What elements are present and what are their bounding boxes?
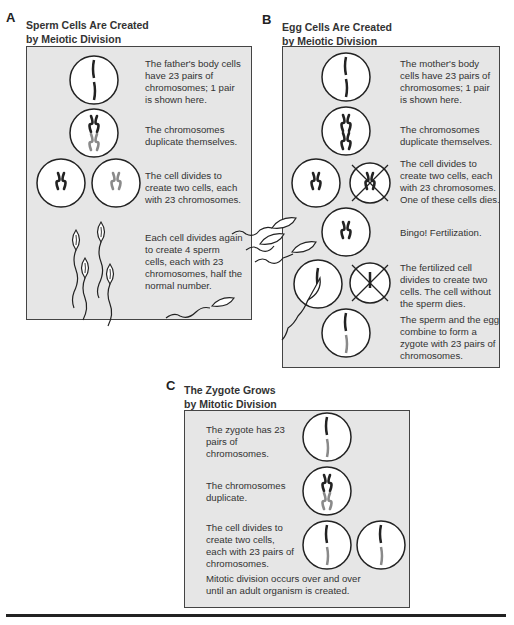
a-cell-duplicate bbox=[70, 109, 118, 157]
c-cell-duplicate bbox=[303, 467, 351, 515]
a-cell-body bbox=[70, 56, 118, 104]
b-cell-dead bbox=[350, 163, 390, 203]
a-sperm-group bbox=[73, 222, 235, 326]
b-cell-body bbox=[322, 53, 370, 101]
c-cell-divided-2 bbox=[357, 521, 405, 569]
b-cell-fertilization bbox=[322, 208, 370, 256]
b-cell-dead-2 bbox=[350, 263, 390, 303]
b-cell-divided bbox=[292, 159, 340, 207]
a-cell-divided-1 bbox=[37, 159, 85, 207]
crossing-sperm bbox=[232, 218, 316, 264]
a-cell-divided-2 bbox=[92, 159, 140, 207]
bottom-rule bbox=[6, 614, 506, 617]
b-cell-zygote bbox=[322, 309, 370, 357]
meiosis-illustration bbox=[0, 0, 514, 625]
b-cell-duplicate bbox=[322, 107, 370, 155]
c-cell-zygote bbox=[303, 413, 351, 461]
c-cell-divided-1 bbox=[303, 521, 351, 569]
